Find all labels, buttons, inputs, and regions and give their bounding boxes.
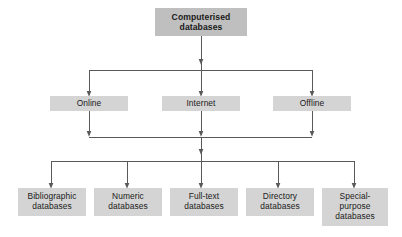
node-numeric-databases: Numeric databases xyxy=(94,188,162,216)
node-root-label-line-1: Computerised xyxy=(170,12,233,22)
node-special-purpose-databases: Special- purpose databases xyxy=(322,188,388,226)
node-offline-label: Offline xyxy=(298,99,327,109)
node-numeric-line-2: databases xyxy=(106,202,149,212)
node-bibliographic-line-2: databases xyxy=(25,202,78,212)
node-directory-line-2: databases xyxy=(258,202,301,212)
node-special-purpose-line-3: databases xyxy=(333,212,376,222)
diagram-canvas: Computeriseddatabases Online Internet Of… xyxy=(0,0,402,237)
node-fulltext-line-2: databases xyxy=(182,202,225,212)
node-internet-label: Internet xyxy=(184,99,217,109)
node-online-label: Online xyxy=(75,99,104,109)
node-full-text-databases: Full-text databases xyxy=(170,188,238,216)
node-directory-databases: Directory databases xyxy=(246,188,314,216)
node-online: Online xyxy=(50,96,128,111)
node-bibliographic-databases: Bibliographic databases xyxy=(18,188,86,216)
node-computerised-databases: Computeriseddatabases xyxy=(155,8,247,36)
node-offline: Offline xyxy=(273,96,351,111)
node-root-label-line-2: databases xyxy=(170,22,233,32)
node-internet: Internet xyxy=(162,96,240,111)
